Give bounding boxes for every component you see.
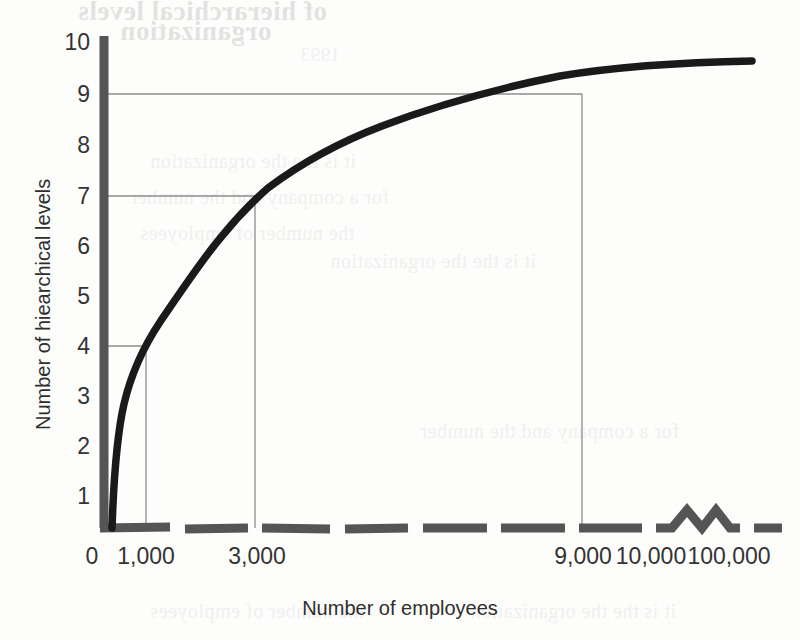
chart-figure: of hierarchical levels organization 1993… bbox=[0, 0, 800, 640]
x-axis-title: Number of employees bbox=[0, 597, 800, 620]
y-axis-title: Number of hiearchical levels bbox=[32, 179, 55, 430]
x-tick-label-1000: 1,000 bbox=[117, 543, 175, 570]
x-tick-label-10000: 10,000 bbox=[616, 543, 686, 570]
y-tick-label-10: 10 bbox=[44, 29, 90, 56]
x-axis-line bbox=[100, 510, 782, 529]
x-tick-label-9000: 9,000 bbox=[554, 543, 612, 570]
y-tick-label-1: 1 bbox=[44, 483, 90, 510]
x-tick-label-0: 0 bbox=[86, 543, 99, 570]
y-tick-label-9: 9 bbox=[44, 81, 90, 108]
reference-lines bbox=[104, 94, 582, 528]
x-tick-label-3000: 3,000 bbox=[228, 543, 286, 570]
y-tick-label-8: 8 bbox=[44, 132, 90, 159]
data-curve bbox=[112, 61, 752, 528]
x-tick-label-100000: 100,000 bbox=[687, 543, 770, 570]
y-tick-label-2: 2 bbox=[44, 433, 90, 460]
axis-break-zigzag-icon bbox=[656, 510, 740, 528]
